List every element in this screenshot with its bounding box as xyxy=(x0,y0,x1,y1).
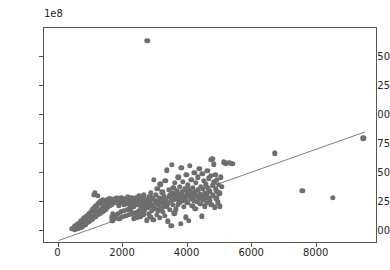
x-axis-tick-mark xyxy=(58,243,59,247)
x-axis-tick-label: 4000 xyxy=(162,247,212,258)
x-axis-tick-mark xyxy=(122,243,123,247)
trend-line-segment xyxy=(59,132,366,241)
x-axis-tick-mark xyxy=(251,243,252,247)
x-axis-tick-label: 0 xyxy=(33,247,83,258)
x-axis-tick-mark xyxy=(187,243,188,247)
x-axis-tick-label: 2000 xyxy=(97,247,147,258)
x-axis-tick-mark xyxy=(316,243,317,247)
x-axis-tick-label: 6000 xyxy=(226,247,276,258)
scatter-plot-figure: 1e8 0.000.250.500.751.001.251.50 0200040… xyxy=(0,0,390,270)
plot-area xyxy=(43,27,377,243)
trend-line xyxy=(44,28,377,243)
x-axis-tick-label: 8000 xyxy=(291,247,341,258)
